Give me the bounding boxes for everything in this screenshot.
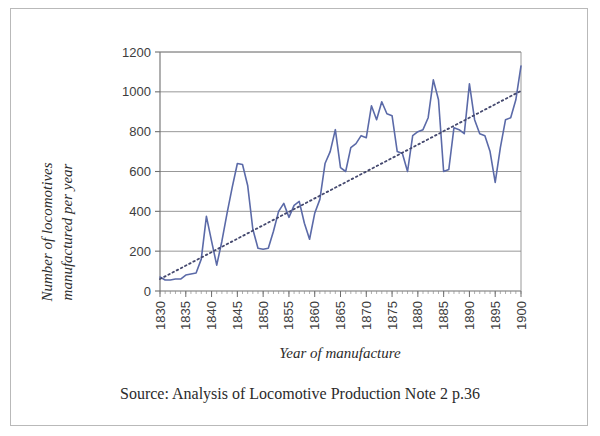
x-tick-label: 1875 [385, 301, 400, 330]
x-axis-title: Year of manufacture [279, 345, 401, 361]
x-tick-label: 1855 [281, 301, 296, 330]
y-axis-tick-labels: 020040060080010001200 [122, 45, 151, 299]
data-series-locomotives [160, 66, 521, 280]
locomotive-production-chart: 020040060080010001200 183018351840184518… [0, 0, 600, 436]
x-tick-label: 1900 [514, 301, 529, 330]
x-tick-label: 1885 [436, 301, 451, 330]
x-tick-label: 1840 [204, 301, 219, 330]
figure-container: 020040060080010001200 183018351840184518… [0, 0, 600, 436]
y-tick-label: 1000 [122, 84, 151, 99]
y-axis-title-line1: Number of locomotives [39, 162, 55, 302]
y-tick-label: 400 [129, 204, 151, 219]
plot-gridlines [160, 52, 521, 251]
x-tick-label: 1850 [256, 301, 271, 330]
x-axis-tick-labels: 1830183518401845185018551860186518701875… [153, 301, 529, 330]
y-tick-label: 0 [144, 284, 151, 299]
y-tick-label: 600 [129, 164, 151, 179]
x-tick-label: 1830 [153, 301, 168, 330]
x-tick-label: 1895 [488, 301, 503, 330]
y-tick-label: 200 [129, 244, 151, 259]
x-tick-label: 1835 [178, 301, 193, 330]
x-tick-label: 1865 [333, 301, 348, 330]
source-note: Source: Analysis of Locomotive Productio… [120, 385, 480, 403]
x-tick-label: 1860 [307, 301, 322, 330]
y-tick-label: 1200 [122, 45, 151, 60]
locomotive-production-line [160, 66, 521, 280]
y-axis-title-line2: manufactured per year [59, 163, 75, 300]
x-axis-major-ticks [160, 291, 521, 297]
x-tick-label: 1870 [359, 301, 374, 330]
x-tick-label: 1845 [230, 301, 245, 330]
x-tick-label: 1880 [410, 301, 425, 330]
x-tick-label: 1890 [462, 301, 477, 330]
y-tick-label: 800 [129, 124, 151, 139]
